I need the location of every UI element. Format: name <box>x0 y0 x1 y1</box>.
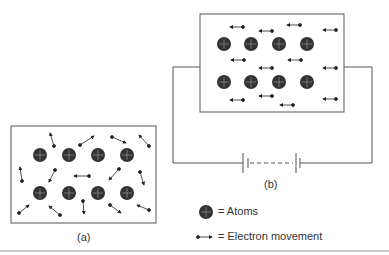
legend-atoms-text: = Atoms <box>218 205 258 217</box>
panel-b <box>173 14 372 173</box>
legend-electron-arrow-icon <box>197 236 213 239</box>
diagram-canvas <box>0 0 389 255</box>
panel-a-label: (a) <box>77 231 90 243</box>
legend-atom-icon <box>199 205 213 219</box>
panel-a <box>11 126 156 223</box>
legend-electron-text: = Electron movement <box>218 230 322 242</box>
panel-b-label: (b) <box>264 178 277 190</box>
